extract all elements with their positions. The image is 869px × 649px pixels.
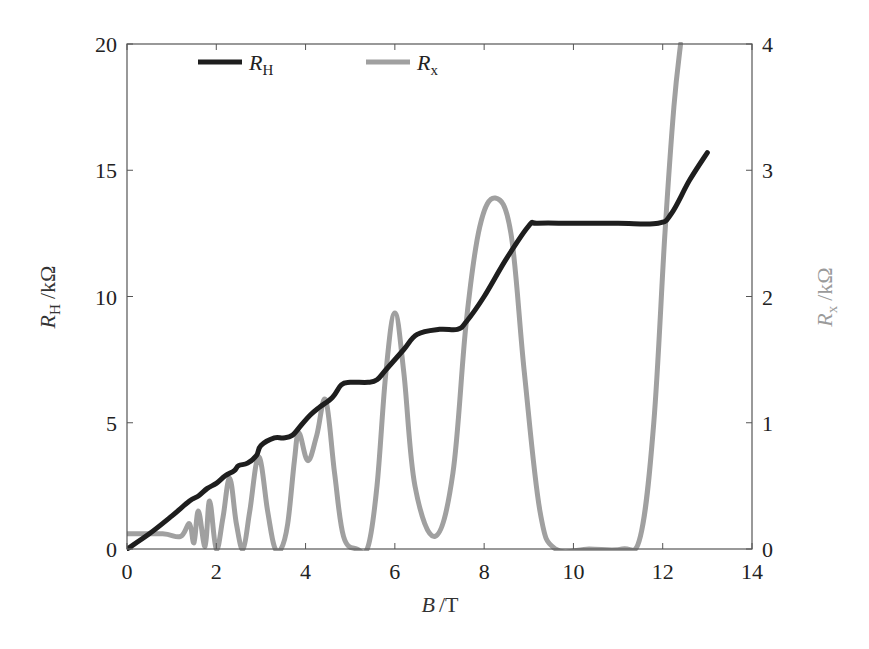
x-tick-label: 4 bbox=[300, 559, 311, 584]
y-right-tick-label: 0 bbox=[762, 537, 773, 562]
x-tick-label: 12 bbox=[652, 559, 674, 584]
legend-label-rh: RH bbox=[248, 50, 273, 78]
y-axis-right-label: Rx/kΩ bbox=[812, 267, 840, 327]
y-right-label-sub: x bbox=[824, 305, 840, 313]
plot-frame bbox=[127, 44, 752, 549]
y-left-label-sub: H bbox=[47, 304, 63, 315]
x-axis-label-var: B bbox=[421, 592, 434, 617]
y-left-tick-label: 10 bbox=[95, 285, 117, 310]
x-tick-label: 8 bbox=[479, 559, 490, 584]
y-right-tick-label: 2 bbox=[762, 285, 773, 310]
x-axis-ticks: 02468101214 bbox=[122, 44, 764, 584]
legend-item-rx: Rx bbox=[366, 50, 438, 78]
x-tick-label: 6 bbox=[389, 559, 400, 584]
y-left-tick-label: 15 bbox=[95, 158, 117, 183]
series-r-x bbox=[127, 44, 681, 553]
x-tick-label: 0 bbox=[122, 559, 133, 584]
y-left-label-unit: /kΩ bbox=[35, 266, 60, 299]
y-left-tick-label: 0 bbox=[106, 537, 117, 562]
y-left-tick-label: 5 bbox=[106, 411, 117, 436]
legend: RH Rx bbox=[198, 50, 438, 78]
x-axis-label-unit: /T bbox=[439, 592, 459, 617]
y-right-label-unit: /kΩ bbox=[812, 267, 837, 300]
y-left-label-var: R bbox=[35, 314, 60, 329]
series-layer bbox=[127, 44, 707, 553]
y-axis-right-ticks: 01234 bbox=[746, 32, 773, 562]
y-right-tick-label: 1 bbox=[762, 411, 773, 436]
y-right-tick-label: 3 bbox=[762, 158, 773, 183]
x-tick-label: 2 bbox=[211, 559, 222, 584]
y-right-label-var: R bbox=[812, 313, 837, 328]
x-tick-label: 10 bbox=[562, 559, 584, 584]
x-axis-label: B/T bbox=[421, 592, 459, 617]
legend-item-rh: RH bbox=[198, 50, 273, 78]
y-axis-left-label: RH/kΩ bbox=[35, 266, 63, 330]
legend-label-rx: Rx bbox=[416, 50, 438, 78]
x-tick-label: 14 bbox=[741, 559, 763, 584]
y-left-tick-label: 20 bbox=[95, 32, 117, 57]
y-right-tick-label: 4 bbox=[762, 32, 773, 57]
chart: 02468101214 05101520 01234 B/T RH/kΩ Rx/… bbox=[0, 0, 869, 649]
